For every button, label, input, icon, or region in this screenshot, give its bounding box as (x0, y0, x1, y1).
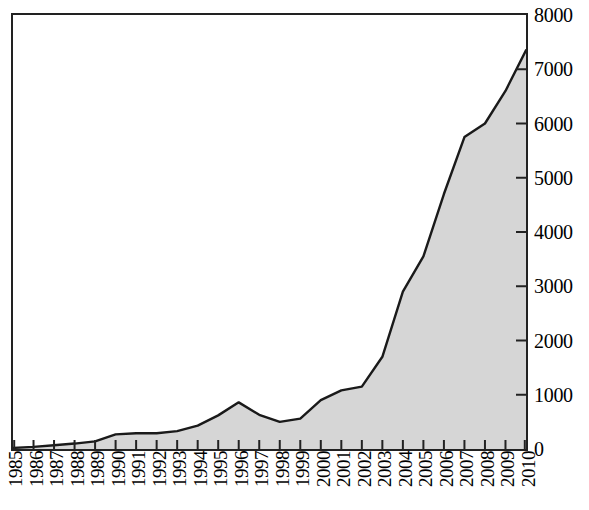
area-fill-shape (13, 50, 526, 449)
x-axis-label-1988: 1988 (68, 451, 87, 509)
x-axis-label-1991: 1991 (129, 451, 148, 509)
x-axis-label-2002: 2002 (355, 451, 374, 509)
x-axis-label-1992: 1992 (150, 451, 169, 509)
x-axis-label-2007: 2007 (457, 451, 476, 509)
x-axis-label-1996: 1996 (232, 451, 251, 509)
y-axis: 010002000300040005000600070008000 (534, 0, 589, 510)
x-axis-label-1993: 1993 (170, 451, 189, 509)
x-axis-label-2003: 2003 (375, 451, 394, 509)
y-axis-label-7000: 7000 (534, 59, 573, 79)
x-axis-label-1990: 1990 (109, 451, 128, 509)
plot-area-svg (13, 15, 526, 449)
x-axis-label-2000: 2000 (314, 451, 333, 509)
y-axis-label-2000: 2000 (534, 331, 573, 351)
x-axis-label-1989: 1989 (88, 451, 107, 509)
x-axis-label-2008: 2008 (478, 451, 497, 509)
x-axis-label-2005: 2005 (416, 451, 435, 509)
y-axis-label-5000: 5000 (534, 168, 573, 188)
x-axis-label-1995: 1995 (211, 451, 230, 509)
area-chart: 010002000300040005000600070008000 198519… (0, 0, 589, 510)
y-axis-label-6000: 6000 (534, 114, 573, 134)
y-axis-label-8000: 8000 (534, 5, 573, 25)
x-axis: 1985198619871988198919901991199219931994… (0, 451, 589, 510)
x-axis-label-2004: 2004 (396, 451, 415, 509)
plot-frame (11, 13, 528, 451)
x-axis-label-2010: 2010 (519, 451, 538, 509)
x-axis-label-1999: 1999 (293, 451, 312, 509)
x-axis-label-1997: 1997 (252, 451, 271, 509)
x-axis-label-1985: 1985 (6, 451, 25, 509)
y-axis-label-4000: 4000 (534, 222, 573, 242)
y-axis-label-3000: 3000 (534, 276, 573, 296)
x-axis-label-2001: 2001 (334, 451, 353, 509)
x-axis-label-2006: 2006 (437, 451, 456, 509)
x-axis-label-2009: 2009 (498, 451, 517, 509)
y-axis-label-1000: 1000 (534, 385, 573, 405)
x-axis-label-1987: 1987 (47, 451, 66, 509)
x-axis-label-1994: 1994 (191, 451, 210, 509)
x-axis-label-1986: 1986 (27, 451, 46, 509)
x-axis-label-1998: 1998 (273, 451, 292, 509)
